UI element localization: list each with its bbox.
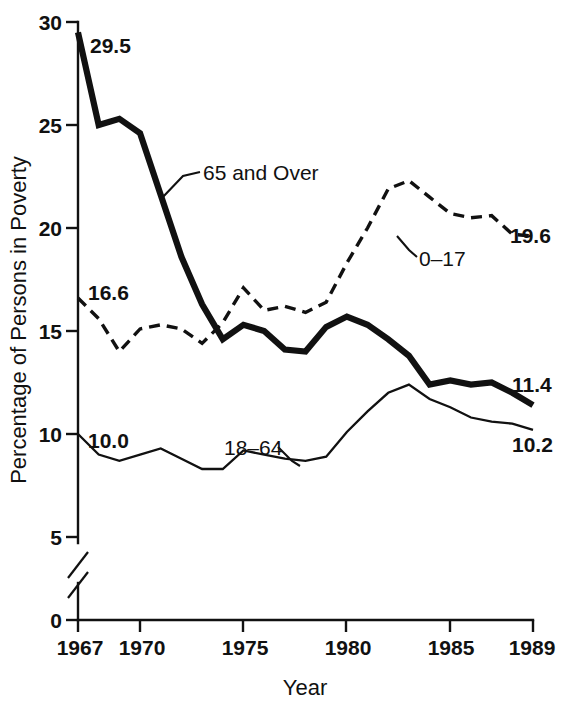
x-tick-label-1967: 1967 [57, 636, 104, 659]
annotation-labels: 65 and Over 0–17 18–64 [203, 161, 466, 459]
x-tick-label-1970: 1970 [119, 636, 166, 659]
value-label-adults-end: 10.2 [512, 433, 553, 456]
y-tick-label-15: 15 [39, 320, 63, 343]
y-axis-title: Percentage of Persons in Poverty [6, 156, 31, 484]
series-path-adults-18-64 [78, 385, 533, 469]
x-axis-ticks: 1967 1970 1975 1980 1985 1989 [57, 620, 556, 659]
chart-canvas: 30 25 20 15 10 5 0 1967 1970 1975 1980 1… [0, 0, 577, 707]
value-label-adults-start: 10.0 [88, 429, 129, 452]
series-label-18-64: 18–64 [224, 436, 283, 459]
x-axis-title: Year [283, 675, 327, 700]
poverty-by-age-line-chart: 30 25 20 15 10 5 0 1967 1970 1975 1980 1… [0, 0, 577, 707]
y-tick-label-0: 0 [50, 609, 62, 632]
x-tick-label-1989: 1989 [509, 636, 556, 659]
y-tick-label-20: 20 [39, 217, 62, 240]
series-path-elderly-65-and-over [78, 32, 533, 405]
x-tick-label-1980: 1980 [325, 636, 372, 659]
y-tick-label-25: 25 [39, 114, 63, 137]
annotation-leaders [161, 172, 417, 466]
y-tick-label-5: 5 [50, 526, 62, 549]
series-label-65-and-over: 65 and Over [203, 161, 319, 184]
y-axis [68, 22, 88, 620]
x-tick-label-1985: 1985 [428, 636, 475, 659]
y-tick-label-30: 30 [39, 11, 62, 34]
y-tick-label-10: 10 [39, 423, 62, 446]
value-labels: 29.5 16.6 10.0 19.6 11.4 10.2 [88, 34, 553, 456]
value-label-elderly-start: 29.5 [90, 34, 131, 57]
x-tick-label-1975: 1975 [222, 636, 269, 659]
value-label-children-start: 16.6 [88, 281, 129, 304]
value-label-children-end: 19.6 [510, 224, 551, 247]
leader-line-0-17 [397, 236, 417, 257]
series-label-0-17: 0–17 [419, 247, 466, 270]
y-axis-ticks: 30 25 20 15 10 5 0 [39, 11, 78, 632]
leader-line-65-and-over [161, 172, 200, 199]
value-label-elderly-end: 11.4 [512, 373, 552, 396]
